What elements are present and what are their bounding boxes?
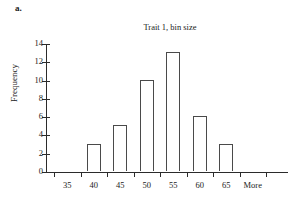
x-tick-mark [81,172,82,177]
y-tick-label: 4 [39,129,43,139]
x-tick-label: 45 [116,180,125,191]
x-tick-mark [134,172,135,177]
bar [193,116,207,171]
y-tick-mark [42,44,50,45]
bar [113,125,127,171]
y-axis-label: Frequency [9,43,19,123]
x-tick-label: 35 [63,180,72,191]
x-tick-mark [107,172,108,177]
x-tick-mark [266,172,267,177]
x-tick-label: 65 [222,180,231,191]
x-tick-mark [213,172,214,177]
x-tick-mark [54,172,55,177]
y-tick-label: 0 [39,166,43,176]
y-tick-mark [42,62,50,63]
histogram-figure: a. Trait 1, bin size Frequency 024681012… [0,0,300,204]
y-tick-label: 6 [39,111,43,121]
x-tick-mark [187,172,188,177]
y-tick-mark [42,81,50,82]
y-tick-mark [42,117,50,118]
y-tick-label: 12 [35,56,44,66]
x-tick-label: 40 [90,180,99,191]
bar [87,144,101,171]
bar [140,80,154,171]
x-tick-mark [240,172,241,177]
y-tick-mark [42,135,50,136]
y-tick-label: 8 [39,93,43,103]
bar [219,144,233,171]
y-tick-label: 10 [35,75,44,85]
x-tick-mark [160,172,161,177]
panel-label: a. [15,3,22,13]
x-axis-line [46,172,288,173]
x-tick-label: 55 [169,180,178,191]
y-tick-label: 2 [39,148,43,158]
y-tick-mark [42,99,50,100]
x-tick-label: More [244,180,262,191]
y-tick-mark [42,154,50,155]
chart-title: Trait 1, bin size [60,22,280,32]
bar [166,52,180,171]
y-tick-mark [42,172,50,173]
x-tick-label: 50 [143,180,152,191]
x-tick-label: 60 [196,180,205,191]
y-tick-label: 14 [35,38,44,48]
plot-area: 02468101214 35404550556065More [46,44,288,172]
